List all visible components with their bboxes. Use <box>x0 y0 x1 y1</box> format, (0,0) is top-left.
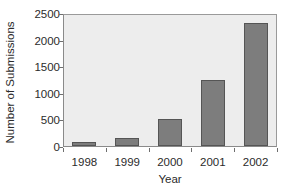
x-axis-tick-mark <box>149 148 150 152</box>
x-axis-tick-label: 1999 <box>106 155 149 169</box>
y-axis-tick-label: 500 <box>18 114 60 126</box>
x-axis-tick-label: 1998 <box>63 155 106 169</box>
bar <box>158 119 182 146</box>
bar <box>201 80 225 146</box>
x-axis-tick-labels: 19981999200020012002 <box>63 155 277 169</box>
y-axis-tick-label: 2500 <box>18 8 60 20</box>
bars-layer <box>64 15 276 146</box>
bar <box>115 138 139 146</box>
y-axis-tick-label: 0 <box>18 141 60 153</box>
y-axis-tick-mark <box>59 94 63 95</box>
x-axis-title: Year <box>63 172 277 186</box>
x-axis-tick-label: 2001 <box>191 155 234 169</box>
bar <box>72 142 96 146</box>
y-axis-title: Number of Submissions <box>3 10 17 155</box>
x-axis-tick-label: 2002 <box>234 155 277 169</box>
x-axis-tick-mark <box>191 148 192 152</box>
y-axis-tick-mark <box>59 41 63 42</box>
x-axis-tick-label: 2000 <box>149 155 192 169</box>
plot-area <box>63 14 277 147</box>
y-axis-tick-label: 1000 <box>18 88 60 100</box>
x-axis-tick-mark <box>234 148 235 152</box>
x-axis-tick-mark <box>106 148 107 152</box>
y-axis-tick-mark <box>59 67 63 68</box>
y-axis-tick-mark <box>59 14 63 15</box>
y-axis-tick-mark <box>59 120 63 121</box>
x-axis-tick-mark <box>277 148 278 152</box>
x-axis-tick-mark <box>63 148 64 152</box>
y-axis-tick-label: 2000 <box>18 35 60 47</box>
bar <box>244 23 268 146</box>
y-axis-tick-labels: 05001000150020002500 <box>18 8 60 153</box>
y-axis-tick-label: 1500 <box>18 61 60 73</box>
bar-chart-figure: Number of Submissions 050010001500200025… <box>0 0 291 194</box>
